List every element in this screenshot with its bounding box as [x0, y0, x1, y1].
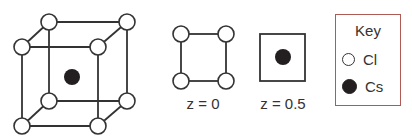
cl-atom [90, 118, 106, 134]
layer-label-z0: z = 0 [187, 95, 220, 112]
cl-atom [14, 39, 30, 55]
key-title: Key [336, 22, 400, 39]
layer-label-z05: z = 0.5 [260, 95, 305, 112]
key-item-cs: Cs [342, 77, 383, 95]
cl-atom [119, 14, 135, 30]
layer-z05: z = 0.5 [260, 34, 306, 112]
cl-atom [173, 26, 189, 42]
key-item-cl: Cl [342, 50, 377, 68]
cs-atom-center [64, 69, 80, 85]
layer-z0: z = 0 [173, 26, 234, 112]
cs-atom [275, 49, 291, 65]
key-label-cs: Cs [365, 78, 383, 95]
cl-atom [41, 14, 57, 30]
cl-atom [173, 73, 189, 89]
open-circle-icon [342, 53, 355, 66]
cl-atom [218, 73, 234, 89]
cl-atom [14, 118, 30, 134]
key-label-cl: Cl [363, 51, 377, 68]
key-legend: Key Cl Cs [335, 14, 401, 106]
cl-atom [41, 93, 57, 109]
cl-atom [119, 93, 135, 109]
cl-atom [90, 39, 106, 55]
cl-atom [218, 26, 234, 42]
filled-circle-icon [342, 79, 357, 94]
